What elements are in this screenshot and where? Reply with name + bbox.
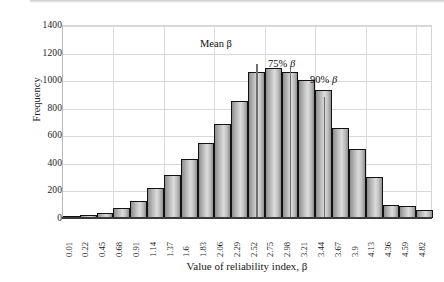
annotation-label-mean: Mean β — [200, 38, 232, 49]
gridline-vertical — [113, 26, 114, 218]
marker-line-p75 — [290, 69, 291, 219]
histogram-bar — [181, 159, 198, 218]
x-axis-tick-label: 0.22 — [81, 243, 90, 257]
gridline-horizontal — [63, 81, 431, 82]
scan-artifact — [30, 0, 444, 3]
x-axis-tick-label: 1.14 — [149, 243, 158, 257]
x-axis-tick-label: 4.36 — [384, 243, 393, 257]
histogram-bar — [231, 101, 248, 218]
x-axis-tick-label: 0.01 — [65, 243, 74, 257]
x-axis-tick-label: 3.44 — [317, 243, 326, 257]
annotation-label-p90: 90% β — [310, 74, 337, 85]
histogram-bar — [349, 149, 366, 218]
x-axis-tick-label: 0.45 — [98, 243, 107, 257]
annotation-text: 90% — [310, 74, 332, 85]
x-axis-tick-label: 3.21 — [300, 243, 309, 257]
y-axis-tick-label: 1400 — [4, 20, 62, 30]
histogram-bar — [298, 80, 315, 218]
annotation-beta-symbol: β — [332, 74, 337, 85]
y-axis-tick-label: 200 — [4, 185, 62, 195]
x-axis-tick-label: 4.13 — [367, 243, 376, 257]
annotation-text: 75% — [268, 58, 290, 69]
annotation-beta-symbol: β — [227, 38, 232, 49]
x-axis-tick-label: 0.91 — [132, 243, 141, 257]
gridline-horizontal — [63, 26, 431, 27]
gridline-horizontal — [63, 54, 431, 55]
x-axis-line — [62, 217, 432, 219]
x-axis-title: Value of reliability index, β — [62, 260, 432, 272]
histogram-bar — [265, 68, 282, 218]
x-axis-tick-label: 2.29 — [233, 243, 242, 257]
histogram-bar — [147, 188, 164, 218]
x-axis-tick-label: 4.82 — [418, 243, 427, 257]
histogram-bar — [332, 128, 349, 218]
histogram-bar — [164, 175, 181, 218]
x-axis-tick-label: 1.83 — [199, 243, 208, 257]
x-axis-tick-label: 2.98 — [283, 243, 292, 257]
y-axis-tick-label: 600 — [4, 130, 62, 140]
annotation-beta-symbol: β — [290, 58, 295, 69]
histogram-bar — [198, 143, 215, 218]
y-axis-tick-label: 1000 — [4, 75, 62, 85]
y-axis: Frequency 1400120010008006004002000 — [0, 0, 62, 282]
x-axis-tick-label: 4.59 — [401, 243, 410, 257]
marker-line-mean — [256, 64, 257, 219]
plot-area — [62, 25, 432, 218]
histogram-bar — [366, 177, 383, 218]
histogram-figure: Frequency 1400120010008006004002000 0.01… — [0, 0, 444, 282]
y-axis-tick-label: 1200 — [4, 48, 62, 58]
x-axis-tick-label: 2.06 — [216, 243, 225, 257]
x-axis-ticks: 0.010.220.450.680.911.141.371.61.832.062… — [62, 221, 432, 257]
gridline-vertical — [416, 26, 417, 218]
annotation-label-p75: 75% β — [268, 58, 295, 69]
histogram-bar — [130, 201, 147, 218]
x-axis-tick-label: 2.75 — [266, 243, 275, 257]
x-axis-tick-label: 1.6 — [182, 243, 191, 257]
histogram-bar — [214, 124, 231, 218]
y-axis-tick-label: 400 — [4, 158, 62, 168]
marker-line-p90 — [324, 97, 325, 219]
y-axis-tick-label: 0 — [4, 213, 62, 223]
x-axis-tick-label: 3.9 — [351, 243, 360, 257]
x-axis-tick-label: 2.52 — [250, 243, 259, 257]
x-axis-tick-label: 0.68 — [115, 243, 124, 257]
x-axis-tick-label: 3.67 — [334, 243, 343, 257]
x-axis-tick-label: 1.37 — [166, 243, 175, 257]
y-axis-tick-label: 800 — [4, 103, 62, 113]
annotation-text: Mean — [200, 38, 227, 49]
